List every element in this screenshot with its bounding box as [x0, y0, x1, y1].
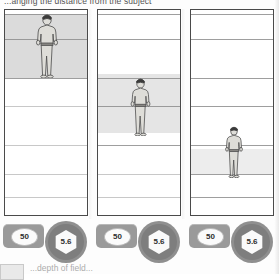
panel-3[interactable]: [190, 9, 274, 216]
caption-top: ...anging the distance from the subject: [4, 0, 234, 7]
shutter-speed-value-3: 50: [206, 233, 215, 241]
aperture-value-1: 5.6: [60, 238, 71, 246]
aperture-icon-3[interactable]: 5.6: [231, 221, 273, 263]
corner-marker: [0, 264, 24, 280]
gridline: [98, 174, 180, 175]
settings-group-3: 50 5.6: [186, 221, 279, 265]
shutter-speed-chip-1[interactable]: 50: [3, 224, 44, 248]
gridline: [191, 39, 273, 40]
human-figure-1: [32, 14, 62, 78]
gridline: [98, 14, 180, 15]
gridline: [191, 197, 273, 198]
panel-wrapper-3: [186, 9, 279, 219]
shutter-speed-chip-3[interactable]: 50: [189, 224, 230, 248]
shutter-speed-dial-2[interactable]: 50: [104, 228, 131, 246]
shutter-speed-dial-1[interactable]: 50: [11, 228, 38, 246]
panel-row: [0, 9, 279, 219]
gridline: [98, 197, 180, 198]
settings-group-1: 50 5.6: [0, 221, 93, 265]
settings-row: 50 5.6 50 5.6: [0, 221, 279, 265]
panel-2[interactable]: [97, 9, 181, 216]
gridline: [191, 106, 273, 107]
panel-wrapper-2: [93, 9, 186, 219]
aperture-value-3: 5.6: [246, 238, 257, 246]
gridline: [5, 197, 87, 198]
shutter-speed-chip-2[interactable]: 50: [96, 224, 137, 248]
panel-wrapper-1: [0, 9, 93, 219]
gridline: [98, 145, 180, 146]
gridline: [5, 106, 87, 107]
shutter-speed-value-2: 50: [113, 233, 122, 241]
gridline: [98, 39, 180, 40]
gridline: [191, 78, 273, 79]
aperture-value-2: 5.6: [153, 238, 164, 246]
caption-bottom: ...depth of field...: [30, 263, 275, 275]
panel-1[interactable]: [4, 9, 88, 216]
gridline: [5, 145, 87, 146]
shutter-speed-dial-3[interactable]: 50: [197, 228, 224, 246]
human-figure-3: [222, 126, 246, 178]
human-figure-2: [127, 78, 154, 136]
gridline: [5, 174, 87, 175]
page-edge-shadow: [274, 0, 279, 274]
gridline: [191, 14, 273, 15]
aperture-icon-1[interactable]: 5.6: [45, 221, 87, 263]
settings-group-2: 50 5.6: [93, 221, 186, 265]
shutter-speed-value-1: 50: [20, 233, 29, 241]
aperture-icon-2[interactable]: 5.6: [138, 221, 180, 263]
